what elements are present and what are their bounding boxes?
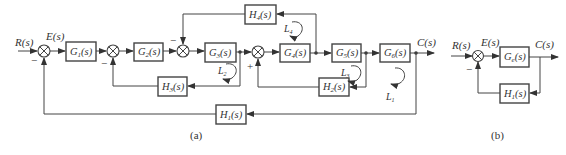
output-label-c: C(s) [417,36,436,49]
sign-sum2: − [101,57,107,69]
loop-l4: L4 [283,22,302,37]
loop-l2: L2 [217,64,236,80]
error-label-e-b: E(s) [480,36,500,49]
loop-l1: L1 [385,68,405,103]
input-label-r-b: R(s) [451,39,471,52]
block-g1: G1(s) [66,42,96,61]
svg-text:L3: L3 [340,67,350,79]
summing-junction-b [473,51,484,62]
summing-junction-1 [38,45,50,57]
block-g2: G2(s) [134,43,163,61]
diagram-b: R(s) − E(s) Ge(s) C(s) H1(s) (b) [451,36,558,142]
block-h1: H1(s) [216,105,246,124]
wire-h4-to-sum3 [183,14,245,44]
wire-h1-to-sum-b [478,62,500,93]
svg-text:L2: L2 [217,65,227,77]
sign-sum4: + [247,60,253,72]
block-h2: H2(s) [319,78,349,96]
wire-to-h1-b [530,57,540,93]
block-g3: G3(s) [205,43,236,62]
error-label-e: E(s) [45,30,65,43]
block-g4: G4(s) [280,44,310,62]
input-label-r: R(s) [14,36,34,49]
block-diagram: R(s) − E(s) G1(s) − G2(s) [0,0,566,155]
block-h4: H4(s) [245,5,276,24]
block-h3: H3(s) [158,77,187,96]
summing-junction-4 [252,46,264,58]
svg-text:L1: L1 [385,91,395,103]
block-g5: G5(s) [332,44,361,62]
sign-sum3: − [170,34,176,46]
block-h1-b: H1(s) [500,84,529,103]
wire-h2-to-sum4 [258,59,319,87]
sign-sum-b: − [466,63,472,75]
output-label-c-b: C(s) [535,38,554,51]
block-g6: G6(s) [380,44,410,62]
block-ge: Ge(s) [500,47,529,67]
summing-junction-2 [107,45,119,57]
svg-text:L4: L4 [283,23,293,35]
sign-sum1: − [31,54,37,66]
wire-h3-to-sum2 [113,58,158,86]
diagram-a: R(s) − E(s) G1(s) − G2(s) [14,5,436,142]
caption-a: (a) [190,129,203,142]
caption-b: (b) [491,129,504,142]
summing-junction-3 [177,45,189,57]
